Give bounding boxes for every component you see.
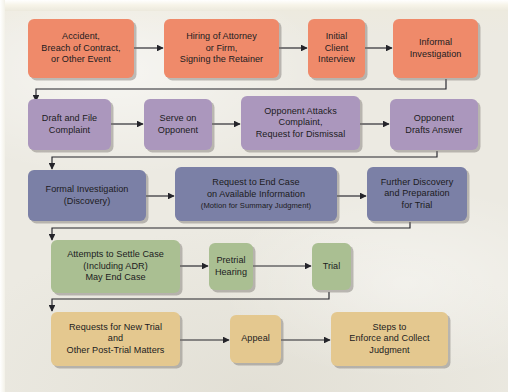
- node-trial[interactable]: Trial: [312, 243, 351, 290]
- node-hiring-of-attorney-label: Hiring of Attorney or Firm, Signing the …: [180, 31, 263, 66]
- node-attempts-to-settle-case-label: Attempts to Settle Case (Including ADR) …: [67, 249, 164, 284]
- node-initial-client-interview-label: Initial Client Interview: [318, 31, 355, 66]
- node-opponent-attacks-complaint[interactable]: Opponent Attacks Complaint, Request for …: [241, 96, 360, 150]
- flowchart-canvas: Accident, Breach of Contract, or Other E…: [0, 0, 508, 392]
- node-serve-on-opponent-label: Serve on Opponent: [158, 113, 198, 136]
- node-draft-and-file-complaint-label: Draft and File Complaint: [42, 113, 97, 136]
- node-opponent-drafts-answer-label: Opponent Drafts Answer: [405, 113, 462, 136]
- node-further-discovery-label: Further Discovery and Preparation for Tr…: [381, 177, 454, 212]
- node-steps-to-enforce-label: Steps to Enforce and Collect Judgment: [349, 322, 429, 357]
- node-informal-investigation[interactable]: Informal Investigation: [393, 19, 478, 78]
- node-requests-for-new-trial-label: Requests for New Trial and Other Post-Tr…: [67, 322, 165, 357]
- connector-trial-to-newtrial: [52, 292, 329, 311]
- node-trial-label: Trial: [323, 261, 341, 273]
- node-accident-label: Accident, Breach of Contract, or Other E…: [41, 31, 120, 66]
- node-formal-investigation-label: Formal Investigation (Discovery): [46, 184, 129, 207]
- node-initial-client-interview[interactable]: Initial Client Interview: [308, 19, 365, 78]
- node-attempts-to-settle-case[interactable]: Attempts to Settle Case (Including ADR) …: [51, 240, 180, 293]
- node-appeal-label: Appeal: [241, 333, 270, 345]
- node-formal-investigation[interactable]: Formal Investigation (Discovery): [28, 170, 146, 221]
- node-request-to-end-case[interactable]: Request to End Case on Available Informa…: [175, 167, 337, 221]
- page-left-edge: [0, 0, 5, 392]
- node-hiring-of-attorney[interactable]: Hiring of Attorney or Firm, Signing the …: [164, 19, 279, 78]
- connector-further-to-settle: [52, 222, 410, 240]
- node-pretrial-hearing[interactable]: Pretrial Hearing: [209, 243, 253, 290]
- page-top-edge: [0, 0, 508, 11]
- node-opponent-attacks-complaint-label: Opponent Attacks Complaint, Request for …: [256, 106, 346, 141]
- node-request-to-end-case-label: Request to End Case on Available Informa…: [207, 177, 305, 200]
- node-request-to-end-case-sublabel: (Motion for Summary Judgment): [201, 201, 311, 211]
- node-pretrial-hearing-label: Pretrial Hearing: [215, 255, 247, 278]
- node-serve-on-opponent[interactable]: Serve on Opponent: [144, 99, 212, 150]
- node-opponent-drafts-answer[interactable]: Opponent Drafts Answer: [390, 99, 478, 150]
- node-further-discovery[interactable]: Further Discovery and Preparation for Tr…: [367, 167, 467, 221]
- node-informal-investigation-label: Informal Investigation: [410, 37, 462, 60]
- node-steps-to-enforce[interactable]: Steps to Enforce and Collect Judgment: [331, 312, 448, 366]
- node-accident[interactable]: Accident, Breach of Contract, or Other E…: [28, 19, 134, 78]
- node-requests-for-new-trial[interactable]: Requests for New Trial and Other Post-Tr…: [51, 312, 180, 366]
- node-draft-and-file-complaint[interactable]: Draft and File Complaint: [28, 99, 111, 150]
- node-appeal[interactable]: Appeal: [230, 315, 281, 363]
